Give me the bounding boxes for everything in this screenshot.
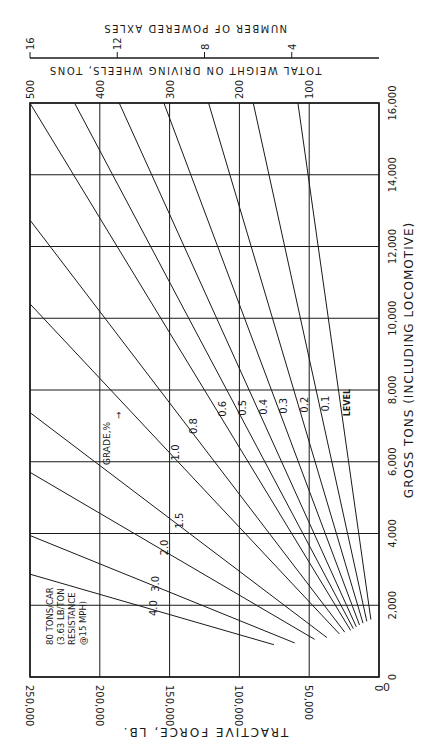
grade-label: 0.6 [217, 401, 228, 417]
axle-tick-label: 4 [287, 44, 298, 50]
origin-label: 0 [383, 681, 390, 694]
grade-label: 4.0 [148, 600, 159, 616]
axle-tick-label: 16 [25, 37, 36, 50]
grade-label: 3.0 [150, 576, 161, 592]
tractive-force-chart: 050,000100,000150,000200,000250,00002,00… [0, 0, 430, 746]
force-tick-label: 250,000 [24, 685, 35, 726]
grade-lines [30, 103, 371, 645]
tractive-force-axis-title: TRACTIVE FORCE, LB. [122, 725, 289, 739]
axle-tick-label: 8 [200, 44, 211, 50]
tons-tick-label: 6,000 [387, 447, 398, 476]
driving-weight-tick-label: 200 [234, 80, 245, 99]
grade-label: 0.8 [188, 418, 199, 434]
grade-label: 0.3 [278, 398, 289, 414]
force-tick-label: 200,000 [94, 685, 105, 726]
gross-tons-axis-title: GROSS TONS (INCLUDING LOCOMOTIVE) [402, 222, 416, 498]
grade-label: 1.5 [174, 513, 185, 529]
tons-tick-label: 2,000 [387, 591, 398, 620]
note-line-2: (3.63 LB/TON [56, 588, 66, 645]
grade-arrow-icon: ↗ [112, 409, 124, 421]
driving-weight-tick-label: 100 [304, 80, 315, 99]
grade-line [30, 103, 351, 630]
grade-label: 0.4 [258, 399, 269, 415]
tons-tick-label: 14,000 [387, 157, 398, 192]
driving-weight-tick-label: 400 [95, 80, 106, 99]
grade-title: GRADE,% [102, 422, 112, 465]
grade-line [30, 304, 339, 634]
grade-line [75, 103, 354, 629]
grade-label: 1.0 [170, 444, 181, 460]
powered-axles-axis-title: NUMBER OF POWERED AXLES [103, 23, 287, 34]
grade-line [253, 103, 367, 621]
grade-label: 0.1 [320, 396, 331, 412]
force-tick-label: 150,000 [164, 685, 175, 726]
grade-label: 2.0 [159, 540, 170, 556]
tons-tick-label: 16,000 [387, 86, 398, 121]
tons-tick-label: 10,000 [387, 301, 398, 336]
grade-line [30, 220, 345, 632]
tons-tick-label: 12,000 [387, 229, 398, 264]
force-tick-label: 100,000 [233, 685, 244, 726]
grade-line [119, 103, 356, 627]
tons-tick-label: 8,000 [387, 376, 398, 405]
resistance-note: 80 TONS/CAR (3.63 LB/TON RESISTANCE @15 … [45, 587, 88, 645]
driving-weight-tick-label: 300 [165, 80, 176, 99]
note-line-4: @15 MPH) [78, 601, 88, 645]
note-line-3: RESISTANCE [67, 592, 77, 645]
grade-line [164, 103, 360, 625]
driving-wheels-axis-title: TOTAL WEIGHT ON DRIVING WHEELS, TONS [48, 65, 322, 76]
grade-label: 0.2 [299, 397, 310, 413]
grade-label: 0.5 [237, 400, 248, 416]
note-line-1: 80 TONS/CAR [45, 587, 55, 645]
tons-tick-label: 0 [387, 674, 398, 680]
force-tick-label: 50,000 [303, 685, 314, 720]
grade-label: LEVEL [343, 389, 352, 416]
driving-weight-tick-label: 500 [25, 80, 36, 99]
tons-tick-label: 4,000 [387, 519, 398, 548]
grade-line [209, 103, 363, 623]
axle-tick-label: 12 [112, 37, 123, 50]
